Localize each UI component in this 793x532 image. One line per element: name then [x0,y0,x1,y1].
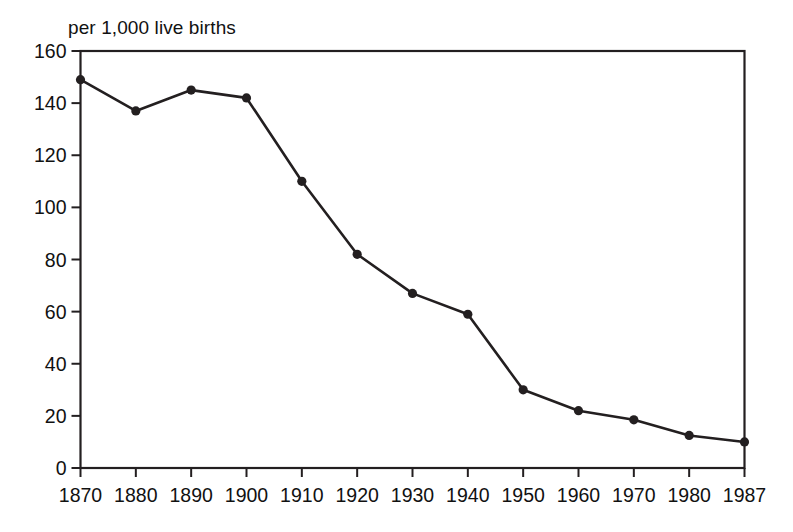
y-tick-label: 100 [34,196,67,219]
data-point [463,310,472,319]
data-point [408,289,417,298]
x-tick-label: 1910 [280,484,323,507]
data-point [574,406,583,415]
y-tick-label: 60 [45,300,67,323]
data-point [353,250,362,259]
y-tick-label: 40 [45,352,67,375]
x-tick-label: 1950 [501,484,544,507]
x-tick-label: 1987 [723,484,766,507]
x-tick-label: 1980 [667,484,710,507]
y-tick-label: 160 [34,40,67,63]
x-tick-label: 1930 [391,484,434,507]
y-tick-label: 0 [56,457,67,480]
line-chart-plot [0,0,793,532]
plot-frame [81,51,745,468]
x-tick-label: 1940 [446,484,489,507]
data-point [685,431,694,440]
series-markers [76,75,749,446]
x-axis-ticks [81,468,745,477]
y-tick-label: 140 [34,92,67,115]
x-tick-label: 1870 [59,484,102,507]
series-line-infant-mortality [81,80,745,442]
y-tick-label: 120 [34,144,67,167]
y-tick-label: 20 [45,404,67,427]
chart-container: per 1,000 live births 020406080100120140… [0,0,793,532]
data-point [131,106,140,115]
x-tick-label: 1880 [114,484,157,507]
x-tick-label: 1920 [335,484,378,507]
data-point [242,93,251,102]
data-point [740,437,749,446]
x-tick-label: 1960 [557,484,600,507]
x-tick-label: 1900 [225,484,268,507]
data-point [297,177,306,186]
y-tick-label: 80 [45,248,67,271]
x-tick-label: 1890 [169,484,212,507]
data-point [519,385,528,394]
data-point [187,85,196,94]
data-point [76,75,85,84]
y-axis-ticks [72,51,81,468]
x-tick-label: 1970 [612,484,655,507]
data-point [629,415,638,424]
